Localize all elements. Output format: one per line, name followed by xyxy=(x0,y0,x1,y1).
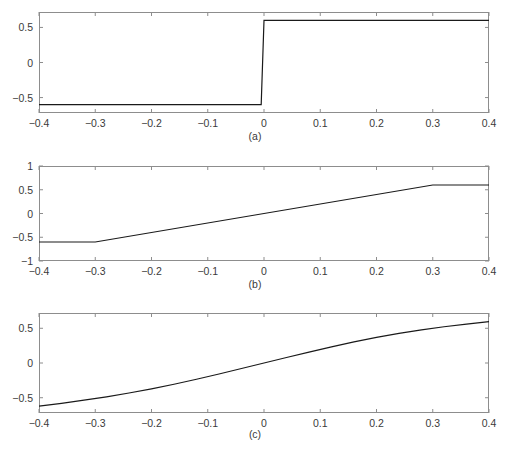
x-tick-label: −0.1 xyxy=(188,418,228,429)
x-tick-label: −0.4 xyxy=(19,418,59,429)
x-tick-label: 0 xyxy=(244,118,284,129)
subplot-caption: (b) xyxy=(0,279,510,290)
subplot-a: 0.50−0.5−0.4−0.3−0.2−0.100.10.20.30.4(a) xyxy=(0,0,510,456)
data-line-hard-limiter xyxy=(39,20,489,104)
x-tick-label: 0.4 xyxy=(469,118,509,129)
x-tick-label: −0.3 xyxy=(75,118,115,129)
y-tick-label: 0.5 xyxy=(18,22,33,33)
subplot-b: 10.50−0.5−1−0.4−0.3−0.2−0.100.10.20.30.4… xyxy=(0,0,510,456)
y-tick-label: 0.5 xyxy=(18,185,33,196)
x-tick-label: −0.2 xyxy=(132,266,172,277)
subplot-caption: (a) xyxy=(0,131,510,142)
figure-canvas: 0.50−0.5−0.4−0.3−0.2−0.100.10.20.30.4(a)… xyxy=(0,0,510,456)
x-tick-label: 0.2 xyxy=(357,266,397,277)
x-tick-label: −0.2 xyxy=(132,418,172,429)
y-tick-label: 0 xyxy=(27,209,33,220)
plot-drawing-layer xyxy=(0,0,510,456)
x-tick-label: 0.1 xyxy=(300,118,340,129)
plot-drawing-layer xyxy=(0,0,510,456)
y-tick-label: 0 xyxy=(27,358,33,369)
data-line-piecewise-linear-saturation xyxy=(39,185,489,242)
x-tick-label: 0 xyxy=(244,418,284,429)
y-tick-label: 1 xyxy=(27,161,33,172)
x-tick-label: −0.2 xyxy=(132,118,172,129)
subplot-caption: (c) xyxy=(0,429,510,440)
x-tick-label: 0.4 xyxy=(469,266,509,277)
x-tick-label: 0.2 xyxy=(357,118,397,129)
x-tick-label: 0.3 xyxy=(413,118,453,129)
x-tick-label: −0.1 xyxy=(188,118,228,129)
x-tick-label: 0.4 xyxy=(469,418,509,429)
y-tick-label: 0 xyxy=(27,58,33,69)
y-tick-label: −0.5 xyxy=(12,232,33,243)
x-tick-label: −0.3 xyxy=(75,418,115,429)
x-tick-label: −0.1 xyxy=(188,266,228,277)
x-tick-label: 0.1 xyxy=(300,418,340,429)
x-tick-label: 0.2 xyxy=(357,418,397,429)
x-tick-label: −0.4 xyxy=(19,266,59,277)
data-line-smooth-sigmoid xyxy=(39,322,489,407)
plot-axes-frame xyxy=(39,12,489,113)
x-tick-label: 0.1 xyxy=(300,266,340,277)
x-tick-label: −0.4 xyxy=(19,118,59,129)
subplot-c: 0.50−0.5−0.4−0.3−0.2−0.100.10.20.30.4(c) xyxy=(0,0,510,456)
y-tick-label: −0.5 xyxy=(12,393,33,404)
x-tick-label: −0.3 xyxy=(75,266,115,277)
y-tick-label: −1 xyxy=(21,256,33,267)
plot-drawing-layer xyxy=(0,0,510,456)
y-tick-label: 0.5 xyxy=(18,323,33,334)
plot-axes-frame xyxy=(39,313,489,413)
y-tick-label: −0.5 xyxy=(12,93,33,104)
plot-axes-frame xyxy=(39,166,489,261)
x-tick-label: 0 xyxy=(244,266,284,277)
x-tick-label: 0.3 xyxy=(413,266,453,277)
x-tick-label: 0.3 xyxy=(413,418,453,429)
